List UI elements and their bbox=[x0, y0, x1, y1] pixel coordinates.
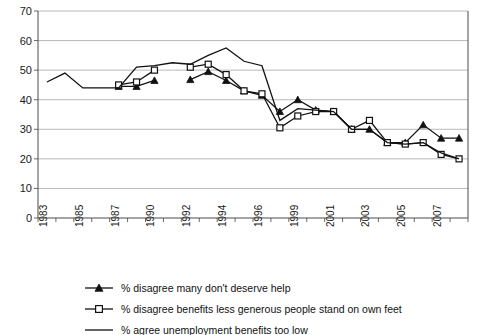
x-tick-label-1985: 1985 bbox=[74, 204, 85, 227]
legend-item-2[interactable]: % agree unemployment benefits too low bbox=[85, 324, 308, 335]
x-tick-label-2001: 2001 bbox=[325, 204, 336, 227]
x-tick-label-1983: 1983 bbox=[38, 204, 49, 227]
data-point-marker bbox=[205, 68, 212, 75]
legend-item-1[interactable]: % disagree benefits less generous people… bbox=[85, 303, 402, 315]
data-point-marker bbox=[134, 79, 140, 85]
series-group bbox=[47, 48, 463, 162]
x-tick-label-1994: 1994 bbox=[217, 204, 228, 227]
y-tick-label-70: 70 bbox=[20, 5, 32, 17]
axes-group bbox=[38, 11, 468, 218]
data-point-marker bbox=[277, 125, 283, 131]
y-tick-label-0: 0 bbox=[26, 212, 32, 224]
legend-label-1: % disagree benefits less generous people… bbox=[121, 303, 402, 315]
y-tick-label-40: 40 bbox=[20, 94, 32, 106]
y-axis-labels-group: 010203040506070 bbox=[20, 5, 32, 224]
data-point-marker bbox=[420, 121, 427, 128]
x-tick-label-1992: 1992 bbox=[181, 204, 192, 227]
line-chart: 010203040506070 198319851987199019921994… bbox=[0, 0, 489, 335]
legend-group: % disagree many don't deserve help% disa… bbox=[85, 282, 402, 335]
x-tick-label-2007: 2007 bbox=[432, 204, 443, 227]
x-tick-label-1999: 1999 bbox=[289, 204, 300, 227]
y-tick-label-30: 30 bbox=[20, 123, 32, 135]
x-axis-labels-group: 1983198519871990199219941996199920012003… bbox=[38, 204, 443, 227]
y-tick-label-10: 10 bbox=[20, 182, 32, 194]
data-point-marker bbox=[187, 76, 194, 83]
legend-item-0[interactable]: % disagree many don't deserve help bbox=[85, 282, 291, 294]
series-line-0 bbox=[119, 72, 459, 143]
y-tick-label-60: 60 bbox=[20, 35, 32, 47]
data-point-marker bbox=[241, 88, 247, 94]
data-point-marker bbox=[205, 61, 211, 67]
x-tick-label-1996: 1996 bbox=[253, 204, 264, 227]
data-point-marker bbox=[456, 156, 462, 162]
data-point-marker bbox=[151, 67, 157, 73]
x-tick-label-2003: 2003 bbox=[360, 204, 371, 227]
series-0 bbox=[115, 68, 463, 146]
x-tick-label-1990: 1990 bbox=[145, 204, 156, 227]
legend-marker-open-square bbox=[96, 306, 103, 313]
series-1 bbox=[116, 61, 462, 162]
data-point-marker bbox=[187, 64, 193, 70]
y-tick-label-50: 50 bbox=[20, 64, 32, 76]
data-point-marker bbox=[295, 113, 301, 119]
gridlines-group bbox=[34, 11, 468, 218]
legend-label-2: % agree unemployment benefits too low bbox=[121, 324, 308, 335]
x-tick-label-2005: 2005 bbox=[396, 204, 407, 227]
y-tick-label-20: 20 bbox=[20, 153, 32, 165]
data-point-marker bbox=[151, 77, 158, 84]
legend-label-0: % disagree many don't deserve help bbox=[121, 282, 291, 294]
data-point-marker bbox=[223, 72, 229, 78]
data-point-marker bbox=[259, 91, 265, 97]
x-tick-label-1987: 1987 bbox=[110, 204, 121, 227]
data-point-marker bbox=[366, 117, 372, 123]
chart-container: 010203040506070 198319851987199019921994… bbox=[0, 0, 489, 335]
